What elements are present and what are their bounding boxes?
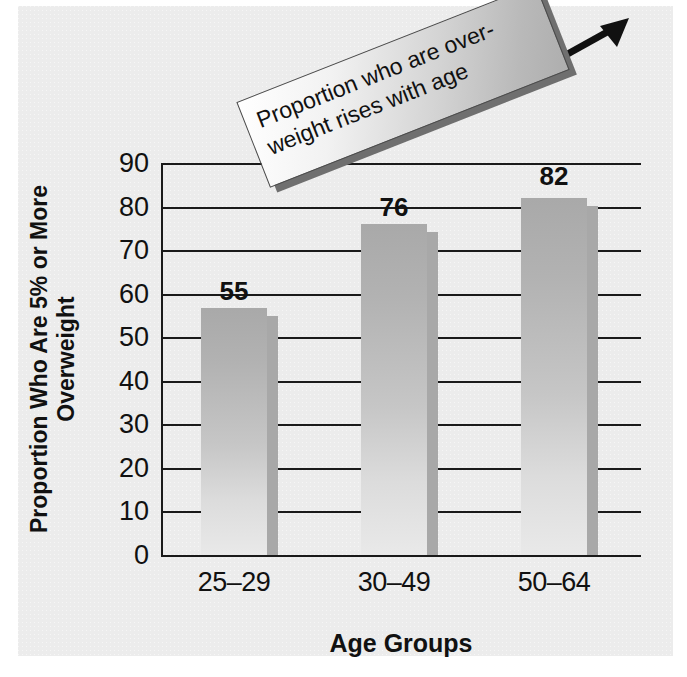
y-tick-label-60: 60 — [89, 280, 149, 307]
y-axis-title-line-2: Overweight — [53, 149, 80, 569]
y-tick-label-30: 30 — [89, 411, 149, 438]
x-tick-label-30-49: 30–49 — [314, 567, 474, 598]
x-tick-label-25-29: 25–29 — [154, 567, 314, 598]
x-axis-line — [161, 555, 641, 557]
plot-area: Proportion Who Are 5% or More Overweight… — [161, 163, 641, 557]
bar-30-49[interactable] — [361, 224, 427, 555]
y-tick-label-80: 80 — [89, 193, 149, 220]
y-tick-label-40: 40 — [89, 367, 149, 394]
x-axis-title: Age Groups — [161, 629, 641, 658]
y-tick-label-50: 50 — [89, 324, 149, 351]
bar-value-30-49: 76 — [354, 192, 434, 223]
x-tick-label-50-64: 50–64 — [474, 567, 634, 598]
y-tick-label-90: 90 — [89, 150, 149, 177]
bar-value-25-29: 55 — [194, 276, 274, 307]
bar-side-50-64 — [587, 206, 598, 555]
y-axis-title: Proportion Who Are 5% or More Overweight — [26, 149, 80, 569]
y-tick-label-0: 0 — [89, 542, 149, 569]
y-axis-line — [161, 163, 163, 557]
bar-25-29[interactable] — [201, 308, 267, 555]
bar-side-30-49 — [427, 232, 438, 555]
bar-value-50-64: 82 — [514, 161, 594, 192]
y-tick-label-20: 20 — [89, 454, 149, 481]
y-axis-title-line-1: Proportion Who Are 5% or More — [26, 149, 53, 569]
y-tick-label-70: 70 — [89, 237, 149, 264]
bar-side-25-29 — [267, 316, 278, 555]
chart-figure: Proportion Who Are 5% or More Overweight… — [0, 0, 687, 677]
bar-50-64[interactable] — [521, 198, 587, 555]
y-tick-label-10: 10 — [89, 498, 149, 525]
